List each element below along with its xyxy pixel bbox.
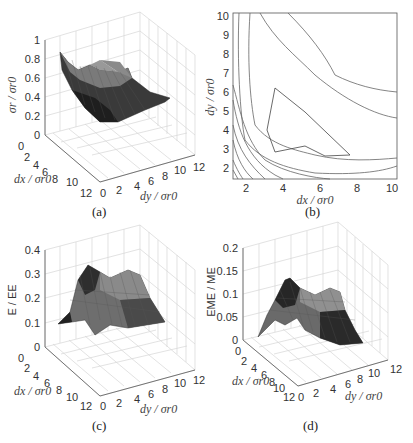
z-tick-c: 0.2 [25, 292, 40, 304]
y-tick-d: 8 [357, 373, 363, 385]
y-axis-label-b: dy / σr0 [205, 78, 217, 115]
x-axis-label-c: dx / σr0 [14, 384, 51, 398]
y-tick-b: 8 [223, 48, 229, 60]
x-tick-a: 12 [80, 187, 92, 199]
y-tick-a: 2 [116, 184, 122, 196]
z-tick-a: 0.4 [25, 91, 40, 103]
surface-mesh-a [60, 52, 170, 122]
z-tick-c: 0.3 [25, 268, 40, 280]
y-tick-c: 12 [193, 374, 205, 386]
y-axis-label-a: dy / σr0 [140, 189, 177, 203]
y-tick-b: 10 [217, 10, 229, 22]
y-tick-b: 9 [223, 29, 229, 41]
z-tick-a: 0.2 [25, 110, 40, 122]
x-tick-c: 10 [66, 391, 78, 403]
x-tick-c: 12 [80, 400, 92, 412]
x-tick-b: 2 [243, 182, 249, 194]
y-tick-a: 0 [100, 187, 106, 199]
surface-plot-d: 0.2 0.15 0.1 0.05 0 0 2 4 6 8 10 12 0 2 … [205, 220, 413, 443]
y-tick-d: 2 [313, 387, 319, 399]
y-tick-c: 0 [100, 400, 106, 412]
z-axis-label-c: E / EE [6, 284, 18, 315]
y-tick-b: 5 [223, 105, 229, 117]
x-tick-b: 4 [280, 182, 286, 194]
z-tick-a: 0.8 [25, 53, 40, 65]
y-axis-label-d: dy / σr0 [345, 389, 382, 403]
z-tick-d: 0.05 [217, 311, 238, 323]
y-tick-a: 10 [174, 164, 186, 176]
x-tick-d: 12 [283, 391, 295, 403]
z-tick-d: 0.15 [217, 265, 238, 277]
surface-plot-a: 1 0.8 0.6 0.4 0.2 0 0 2 4 6 8 10 12 0 2 … [0, 0, 205, 220]
y-tick-b: 2 [223, 162, 229, 174]
y-tick-c: 10 [174, 377, 186, 389]
y-tick-d: 12 [390, 363, 402, 375]
x-tick-c: 2 [24, 362, 30, 374]
z-tick-c: 0 [34, 341, 40, 353]
y-tick-d: 10 [368, 367, 380, 379]
x-tick-d: 2 [241, 355, 247, 367]
z-tick-a: 0.6 [25, 72, 40, 84]
z-tick-c: 0.1 [25, 317, 40, 329]
y-axis-label-c: dy / σr0 [140, 402, 177, 416]
x-tick-a: 10 [66, 176, 78, 188]
x-tick-c: 4 [33, 370, 39, 382]
y-tick-a: 12 [193, 161, 205, 173]
y-tick-a: 8 [162, 170, 168, 182]
z-tick-a: 1 [34, 34, 40, 46]
x-tick-b: 10 [386, 182, 398, 194]
caption-b: (b) [305, 204, 320, 220]
y-tick-d: 0 [298, 391, 304, 403]
y-tick-c: 8 [162, 383, 168, 395]
panel-b-contour: 10 9 8 7 6 5 4 3 2 2 4 6 8 10 dy / σr0 d… [205, 0, 413, 220]
caption-d: (d) [303, 418, 318, 434]
x-tick-c: 8 [56, 384, 62, 396]
y-tick-b: 6 [223, 86, 229, 98]
x-tick-d: 4 [251, 362, 257, 374]
z-axis-label-d: EME / ME [205, 267, 217, 317]
y-tick-a: 6 [148, 175, 154, 187]
y-tick-c: 6 [148, 388, 154, 400]
panel-a-surface-sigma: 1 0.8 0.6 0.4 0.2 0 0 2 4 6 8 10 12 0 2 … [0, 0, 205, 220]
z-tick-d: 0.2 [223, 242, 238, 254]
x-axis-label-d: dx / σr0 [232, 374, 269, 388]
surface-plot-c: 0.4 0.3 0.2 0.1 0 0 2 4 6 8 10 12 0 2 4 … [0, 220, 205, 443]
x-tick-a: 2 [24, 151, 30, 163]
panel-d-surface-eme: 0.2 0.15 0.1 0.05 0 0 2 4 6 8 10 12 0 2 … [205, 220, 413, 443]
caption-a: (a) [92, 204, 106, 220]
caption-c: (c) [92, 418, 106, 434]
y-tick-d: 4 [330, 383, 336, 395]
y-tick-c: 2 [116, 397, 122, 409]
z-tick-c: 0.4 [25, 244, 40, 256]
panel-c-surface-e: 0.4 0.3 0.2 0.1 0 0 2 4 6 8 10 12 0 2 4 … [0, 220, 205, 443]
x-axis-label-a: dx / σr0 [14, 172, 51, 186]
z-axis-label-a: σr / σr0 [5, 77, 19, 114]
contour-plot-b: 10 9 8 7 6 5 4 3 2 2 4 6 8 10 dy / σr0 d… [205, 0, 413, 220]
y-tick-b: 4 [223, 124, 229, 136]
x-tick-a: 8 [52, 173, 58, 185]
y-tick-b: 3 [223, 143, 229, 155]
y-tick-b: 7 [223, 67, 229, 79]
z-tick-d: 0.1 [223, 288, 238, 300]
z-tick-a: 0 [34, 129, 40, 141]
x-tick-a: 4 [33, 159, 39, 171]
x-tick-b: 8 [354, 182, 360, 194]
